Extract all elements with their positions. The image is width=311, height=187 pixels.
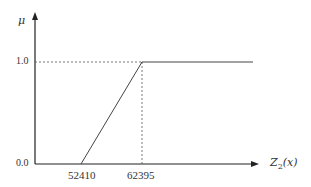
y-tick-1: 1.0 <box>16 55 29 66</box>
membership-line <box>81 62 253 164</box>
membership-chart <box>0 0 311 187</box>
x-axis-label-main: Z <box>270 156 278 169</box>
y-axis-arrow-icon <box>32 12 38 20</box>
x-tick-52410: 52410 <box>68 169 96 181</box>
x-axis-label: Z2(x) <box>270 156 298 171</box>
y-axis-label: μ <box>18 14 25 27</box>
y-tick-0: 0.0 <box>16 157 29 168</box>
x-axis-arrow-icon <box>251 161 259 167</box>
x-axis-label-arg: (x) <box>283 156 298 169</box>
x-tick-62395: 62395 <box>127 169 155 181</box>
